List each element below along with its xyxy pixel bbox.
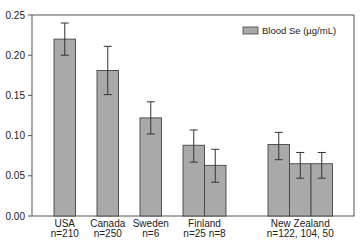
y-tick-label: 0.00 (6, 211, 26, 222)
y-tick-label: 0.25 (6, 10, 26, 21)
y-axis: 0.000.050.100.150.200.25 (6, 10, 32, 222)
legend-swatch (243, 27, 258, 34)
sample-size-label: n=6 (142, 228, 159, 239)
y-tick-label: 0.20 (6, 50, 26, 61)
sample-size-label: n=210 (51, 228, 80, 239)
bar-chart: 0.000.050.100.150.200.25 USAn=210Canadan… (0, 0, 362, 242)
bar (54, 39, 76, 216)
y-tick-label: 0.15 (6, 90, 26, 101)
legend-label: Blood Se (µg/mL) (262, 25, 336, 36)
y-tick-label: 0.10 (6, 130, 26, 141)
sample-size-label: n=122, 104, 50 (267, 228, 334, 239)
x-axis-labels: USAn=210Canadan=250Swedenn=6Finlandn=25 … (51, 218, 334, 239)
legend: Blood Se (µg/mL) (243, 25, 336, 36)
sample-size-label: n=250 (94, 228, 123, 239)
y-tick-label: 0.05 (6, 170, 26, 181)
sample-size-label: n=25 n=8 (183, 228, 226, 239)
